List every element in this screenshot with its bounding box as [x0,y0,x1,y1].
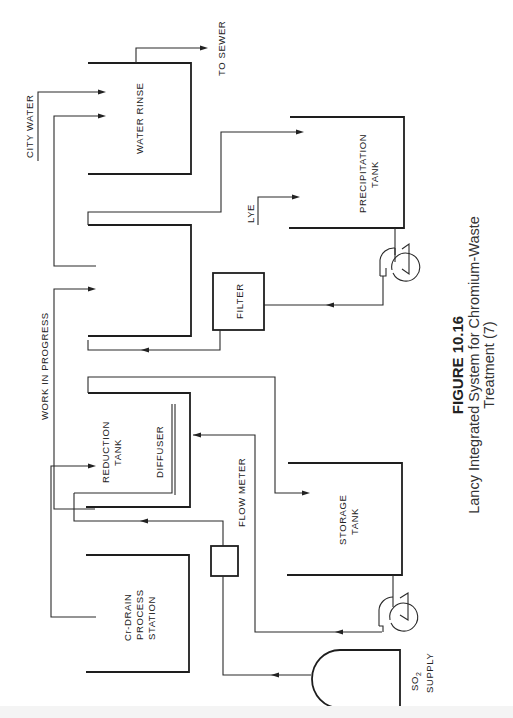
cr-drain-process-station: Cr-DRAIN PROCESS STATION [86,555,189,672]
figure-number: FIGURE 10.16 [449,316,466,414]
arrow-icon [88,287,96,292]
pipe-filter-return [88,330,220,353]
cr-drain-label-3: STATION [146,596,157,640]
work-in-progress-pipe: WORK IN PROGRESS [39,287,96,510]
flow-meter-label: FLOW METER [236,458,247,527]
filter: FILTER [213,273,264,330]
arrow-icon [141,348,149,353]
arrow-icon [140,519,148,524]
arrow-icon [88,464,96,469]
to-sewer-label: TO SEWER [216,21,227,76]
figure-caption: FIGURE 10.16 Lancy Integrated System for… [449,216,497,514]
cr-drain-pipe [51,464,96,618]
arrow-icon [335,630,343,635]
reduction-tank-label-2: TANK [112,439,123,466]
arrow-icon [296,130,304,135]
arrow-icon [98,90,106,95]
so2-supply-label-2: SUPPLY [424,653,435,693]
cr-drain-label-2: PROCESS [134,589,145,640]
storage-tank-label: STORAGE [337,495,348,545]
arrow-icon [98,114,106,119]
reduction-tank-label: REDUCTION [100,421,111,483]
arrow-icon [302,491,310,496]
water-rinse-label: WATER RINSE [134,82,145,154]
lye-label: LYE [245,204,256,223]
cr-drain-label-1: Cr-DRAIN [122,593,133,641]
pipe-pump-to-filter [264,276,383,308]
arrow-icon [292,195,300,200]
figure-caption-line-2: Treatment (7) [481,321,497,408]
so2-supply-label: SO2 [409,672,422,691]
arrow-icon [193,433,201,438]
intermediate-rinse-tank [88,225,191,336]
arrow-icon [271,673,279,678]
diffuser: DIFFUSER [74,404,175,495]
water-rinse-tank: WATER RINSE [88,63,191,174]
city-water-pipe: CITY WATER [24,90,106,162]
city-water-label: CITY WATER [24,95,35,158]
diffuser-label: DIFFUSER [154,426,165,478]
filter-label: FILTER [234,283,245,319]
so2-supply-tank: SO2 SUPPLY [312,650,435,708]
page-edge [0,706,513,718]
lye-pipe: LYE [245,195,300,226]
storage-tank: STORAGE TANK [287,463,402,575]
process-flow-diagram: WATER RINSE TO SEWER CITY WATER PRECIPIT… [0,0,513,718]
overflow-pipe-to-precipitation [88,130,304,226]
precipitation-tank-label-2: TANK [369,161,380,188]
flow-meter: FLOW METER [211,458,247,576]
pump-icon [380,228,420,281]
storage-tank-label-2: TANK [349,508,360,535]
arrow-icon [200,46,208,51]
counterflow-pipe-rinse [54,114,106,267]
precipitation-tank: PRECIPITATION TANK [289,117,404,228]
precipitation-tank-label: PRECIPITATION [357,134,368,213]
figure-caption-line-1: Lancy Integrated System for Chromium-Was… [466,216,482,514]
pipe-flow-meter-to-diffuser [74,493,223,546]
to-sewer-pipe: TO SEWER [136,21,227,76]
work-in-progress-label: WORK IN PROGRESS [39,312,50,420]
pump-icon [379,575,418,632]
pipe-so2-to-flow-meter [223,576,311,678]
arrow-icon [326,303,334,308]
reduction-tank: REDUCTION TANK [86,393,190,507]
